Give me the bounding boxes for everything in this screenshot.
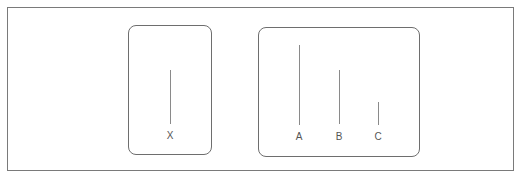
line-c <box>378 102 379 125</box>
label-c: C <box>368 131 388 143</box>
label-x: X <box>160 130 180 142</box>
line-b <box>339 70 340 124</box>
line-x <box>170 70 171 124</box>
line-a <box>299 45 300 125</box>
label-b: B <box>329 131 349 143</box>
label-a: A <box>289 131 309 143</box>
